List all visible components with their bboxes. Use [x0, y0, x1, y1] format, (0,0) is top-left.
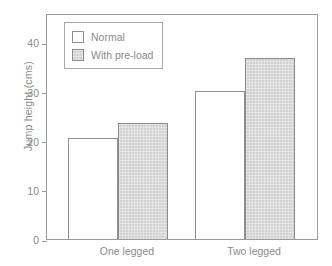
y-tick-label: 10	[15, 185, 39, 197]
y-tick-label: 30	[15, 87, 39, 99]
y-tick-mark	[42, 93, 47, 94]
y-tick-mark	[42, 191, 47, 192]
y-tick-label: 0	[15, 234, 39, 246]
legend-label: With pre-load	[91, 49, 153, 61]
x-category-label-one-legged: One legged	[67, 245, 187, 257]
y-tick-mark	[42, 142, 47, 143]
legend-item-normal: Normal	[72, 29, 153, 44]
y-tick-label: 20	[15, 136, 39, 148]
legend-item-with-pre-load: With pre-load	[72, 47, 153, 62]
bar-two-legged-normal	[195, 91, 245, 239]
y-axis-label: Jump height (cms)	[22, 26, 34, 186]
plot-area: 0 10 20 30 40 Normal	[46, 14, 318, 240]
legend: Normal With pre-load	[64, 22, 163, 69]
bar-chart-figure: Jump height (cms) 0 10 20 30 40	[0, 0, 332, 266]
legend-label: Normal	[91, 31, 125, 43]
bar-two-legged-with-pre-load	[245, 58, 295, 239]
legend-swatch-preload-icon	[72, 49, 84, 61]
y-tick-mark	[42, 241, 47, 242]
bar-one-legged-normal	[68, 138, 118, 239]
x-category-label-two-legged: Two legged	[194, 245, 314, 257]
y-tick-mark	[42, 44, 47, 45]
bar-one-legged-with-pre-load	[118, 123, 168, 239]
y-tick-label: 40	[15, 37, 39, 49]
legend-swatch-normal-icon	[72, 31, 84, 43]
